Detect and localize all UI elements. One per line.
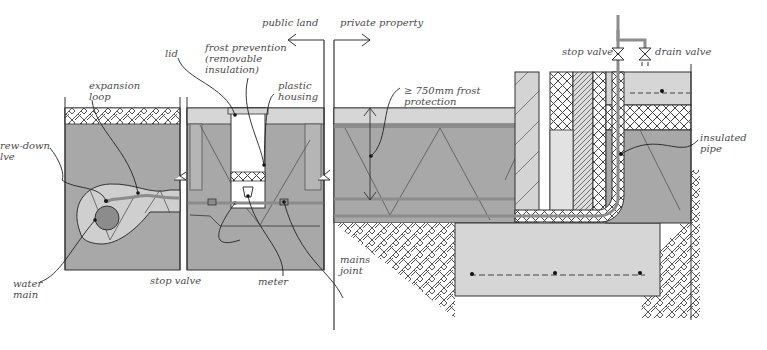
drain-valve-icon: [639, 48, 651, 60]
label-screw-down-valve: rew-down lve: [0, 140, 50, 162]
label-water-main: water main: [13, 278, 42, 300]
label-drain-valve: drain valve: [655, 46, 711, 57]
service-trench-section: [334, 108, 519, 223]
diagram-canvas: public land private property expansion l…: [0, 0, 767, 350]
label-private-property: private property: [340, 17, 423, 28]
label-plastic-housing: plastic housing: [278, 80, 318, 102]
label-mains-joint: mains joint: [340, 254, 370, 276]
label-frost-prevention: frost prevention (removable insulation): [205, 42, 287, 75]
foundation-footing: [455, 223, 660, 296]
diagram-drawing: [0, 0, 767, 350]
label-public-land: public land: [262, 17, 318, 28]
water-main-section: [65, 97, 186, 270]
label-stop-valve-chamber: stop valve: [150, 275, 201, 286]
label-stop-valve-building: stop valve: [562, 46, 613, 57]
label-frost-protection: ≥ 750mm frost protection: [404, 85, 480, 107]
label-lid: lid: [165, 48, 178, 59]
stop-valve-icon: [612, 48, 624, 60]
label-meter: meter: [258, 276, 288, 287]
label-insulated-pipe: insulated pipe: [700, 132, 747, 154]
label-expansion-loop: expansion loop: [89, 80, 140, 102]
